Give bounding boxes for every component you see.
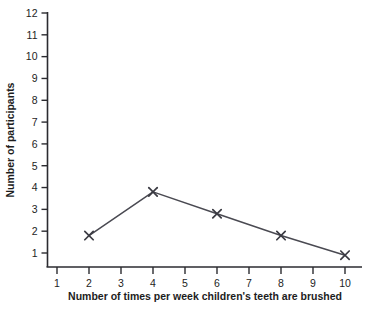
y-axis: 123456789101112 [26,7,48,267]
x-axis-tick-label: 3 [118,277,124,289]
x-axis-tick-label: 2 [86,277,92,289]
x-axis-tick-label: 1 [54,277,60,289]
y-axis-tick-label: 2 [32,225,38,237]
chart-canvas: 123456789101112 12345678910 Number of pa… [0,0,368,309]
y-axis-tick-label: 6 [32,138,38,150]
y-axis-tick-label: 9 [32,72,38,84]
data-point-marker [341,251,349,259]
y-axis-tick-label: 4 [32,181,38,193]
y-axis-tick-label: 8 [32,94,38,106]
x-axis-tick-label: 4 [150,277,156,289]
data-point-marker [213,210,221,218]
y-axis-title: Number of participants [4,82,16,197]
y-axis-tick-label: 10 [26,50,38,62]
y-axis-tick-label: 1 [32,247,38,259]
line-chart: 123456789101112 12345678910 Number of pa… [0,0,368,309]
data-series [85,188,349,260]
x-axis-tick-label: 7 [246,277,252,289]
series-line [89,192,345,255]
data-point-marker [277,231,285,239]
x-axis-tick-label: 6 [214,277,220,289]
x-axis-tick-label: 10 [339,277,351,289]
x-axis-title: Number of times per week children's teet… [68,290,342,302]
y-axis-tick-label: 12 [26,7,38,19]
y-axis-tick-label: 3 [32,203,38,215]
y-axis-tick-label: 7 [32,116,38,128]
y-axis-tick-label: 5 [32,160,38,172]
x-axis-tick-label: 5 [182,277,188,289]
data-point-marker [85,231,93,239]
x-axis-tick-label: 8 [278,277,284,289]
data-point-marker [149,188,157,196]
x-axis-tick-label: 9 [310,277,316,289]
y-axis-tick-label: 11 [27,29,38,41]
x-axis: 12345678910 [47,267,363,289]
